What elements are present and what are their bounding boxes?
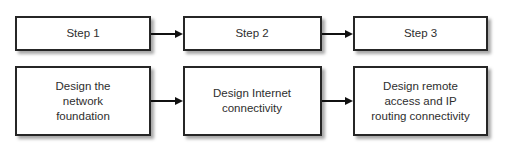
- node-step-3: Step 3: [353, 16, 488, 51]
- flow-diagram: Step 1 Step 2 Step 3 Design the network …: [0, 0, 508, 150]
- node-step-3-label: Step 3: [400, 26, 441, 41]
- arrow-right-icon: [151, 100, 175, 102]
- node-step-1-label: Step 1: [62, 26, 103, 41]
- arrow-right-icon: [322, 100, 346, 102]
- steps-row: Step 1 Step 2 Step 3: [15, 16, 488, 51]
- tasks-row: Design the network foundation Design Int…: [15, 66, 488, 136]
- node-step-2-label: Step 2: [231, 26, 272, 41]
- node-step-2: Step 2: [183, 16, 322, 51]
- node-remote-access-routing-label: Design remote access and IP routing conn…: [367, 79, 473, 124]
- node-internet-connectivity: Design Internet connectivity: [183, 66, 322, 136]
- arrow-right-icon: [151, 33, 175, 35]
- arrow-right-icon: [322, 33, 346, 35]
- node-remote-access-routing: Design remote access and IP routing conn…: [353, 66, 488, 136]
- node-network-foundation: Design the network foundation: [15, 66, 151, 136]
- node-internet-connectivity-label: Design Internet connectivity: [209, 86, 295, 116]
- node-step-1: Step 1: [15, 16, 151, 51]
- node-network-foundation-label: Design the network foundation: [52, 79, 115, 124]
